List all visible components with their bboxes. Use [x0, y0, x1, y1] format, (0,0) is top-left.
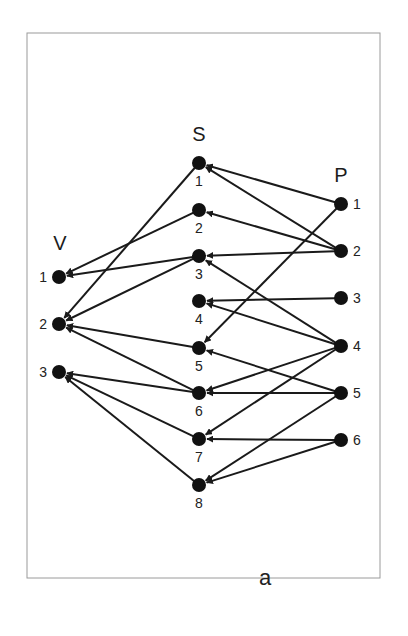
node-p3: [334, 291, 348, 305]
node-label-v2: 2: [39, 316, 47, 332]
edge-s7-to-v3: [66, 375, 193, 436]
node-p5: [334, 386, 348, 400]
tripartite-graph-diagram: 12312345678123456 VSP a: [0, 0, 408, 636]
node-label-s6: 6: [195, 403, 203, 419]
node-s4: [192, 294, 206, 308]
node-label-p1: 1: [353, 196, 361, 212]
node-s3: [192, 249, 206, 263]
node-label-p6: 6: [353, 432, 361, 448]
edge-p4-to-s3: [206, 260, 336, 343]
node-label-v3: 3: [39, 364, 47, 380]
node-v2: [52, 317, 66, 331]
group-title-v: V: [53, 232, 67, 254]
nodes-layer: 12312345678123456: [39, 156, 361, 511]
node-label-p3: 3: [353, 290, 361, 306]
edge-s3-to-v1: [67, 257, 193, 276]
node-label-s8: 8: [195, 495, 203, 511]
node-label-p4: 4: [353, 338, 361, 354]
edge-s3-to-v2: [66, 259, 193, 321]
edge-p1-to-s1: [207, 165, 336, 202]
node-p6: [334, 433, 348, 447]
edge-p4-to-s4: [207, 303, 336, 344]
node-label-s5: 5: [195, 358, 203, 374]
node-p1: [334, 197, 348, 211]
group-title-p: P: [334, 164, 347, 186]
node-s5: [192, 341, 206, 355]
node-label-p2: 2: [353, 243, 361, 259]
node-label-s4: 4: [195, 311, 203, 327]
edge-p4-to-s7: [206, 349, 336, 434]
node-label-s2: 2: [195, 220, 203, 236]
edge-p6-to-s8: [207, 442, 336, 483]
node-p2: [334, 244, 348, 258]
edge-p1-to-s5: [205, 208, 337, 342]
node-label-v1: 1: [39, 269, 47, 285]
node-s8: [192, 478, 206, 492]
group-title-s: S: [192, 123, 205, 145]
edge-s6-to-v3: [67, 373, 193, 392]
node-label-s1: 1: [195, 173, 203, 189]
node-v3: [52, 365, 66, 379]
edge-p6-to-s7: [207, 439, 335, 440]
edge-s2-to-v1: [66, 213, 193, 274]
node-s2: [192, 203, 206, 217]
node-s7: [192, 432, 206, 446]
edge-p3-to-s4: [207, 298, 335, 301]
node-label-p5: 5: [353, 385, 361, 401]
node-label-s7: 7: [195, 449, 203, 465]
figure-caption: a: [259, 565, 272, 590]
edge-p2-to-s1: [206, 167, 336, 248]
node-s6: [192, 386, 206, 400]
node-label-s3: 3: [195, 266, 203, 282]
node-s1: [192, 156, 206, 170]
node-p4: [334, 339, 348, 353]
node-v1: [52, 270, 66, 284]
edge-s8-to-v3: [65, 377, 194, 481]
edge-p2-to-s3: [207, 251, 335, 256]
